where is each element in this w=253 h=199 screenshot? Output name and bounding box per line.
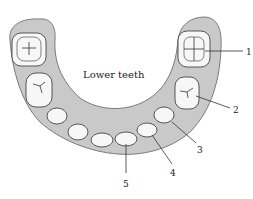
tooth-incisor-left-2 xyxy=(68,124,88,140)
tooth-left-premolar xyxy=(26,73,52,107)
tooth-right-premolar xyxy=(175,77,199,109)
callout-number-1: 1 xyxy=(246,47,252,57)
tooth-right-molar xyxy=(178,31,210,67)
callout-number-5: 5 xyxy=(123,179,129,189)
tooth-canine-4 xyxy=(137,123,157,137)
tooth-canine-left xyxy=(47,108,67,124)
tooth-incisor-left-1 xyxy=(91,133,113,147)
lower-teeth-diagram: Lower teeth 1 2 3 4 5 xyxy=(0,0,253,199)
tooth-incisor-5 xyxy=(115,132,137,146)
diagram-title: Lower teeth xyxy=(83,69,145,80)
tooth-premolar-3 xyxy=(154,107,174,123)
tooth-left-molar xyxy=(12,33,46,66)
callout-number-4: 4 xyxy=(170,168,176,178)
callout-number-3: 3 xyxy=(197,145,203,155)
callout-number-2: 2 xyxy=(233,105,239,115)
